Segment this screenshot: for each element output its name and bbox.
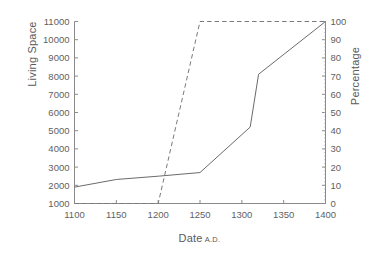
chart-plot-area: 1000200030004000500060007000800090001000…: [0, 0, 384, 257]
x-axis-tick-label: 1250: [189, 209, 210, 220]
y-axis-left-ticks: 1000200030004000500060007000800090001000…: [43, 16, 78, 209]
data-series-line-1: [75, 22, 326, 188]
data-series-line-2: [75, 22, 326, 204]
y-axis-right-tick-label: 10: [331, 180, 342, 191]
y-axis-left-tick-label: 7000: [48, 89, 69, 100]
y-axis-right-tick-label: 90: [331, 34, 342, 45]
y-axis-left-tick-label: 2000: [48, 180, 69, 191]
y-axis-right-tick-label: 100: [331, 16, 347, 27]
y-axis-left-tick-label: 11000: [44, 16, 70, 27]
x-axis-tick-label: 1400: [315, 209, 336, 220]
y-axis-left-tick-label: 10000: [43, 34, 69, 45]
x-axis-tick-label: 1350: [273, 209, 294, 220]
y-axis-right-title: Percentage: [349, 16, 361, 136]
y-axis-left-tick-label: 9000: [48, 52, 69, 63]
data-series-layer: [75, 22, 326, 204]
x-axis-tick-label: 1200: [148, 209, 169, 220]
y-axis-right-tick-label: 0: [331, 198, 336, 209]
y-axis-left-tick-label: 8000: [48, 71, 69, 82]
chart-figure: 1000200030004000500060007000800090001000…: [0, 0, 384, 257]
x-axis-title-main: Date: [179, 232, 203, 244]
x-axis-title-suffix: A.D.: [205, 235, 221, 244]
x-axis-title: DateA.D.: [74, 232, 325, 244]
y-axis-left-tick-label: 3000: [48, 162, 69, 173]
y-axis-left-tick-label: 4000: [48, 143, 69, 154]
x-axis-ticks: 1100115012001250130013501400: [64, 200, 336, 220]
x-axis-tick-label: 1100: [64, 209, 84, 220]
y-axis-right-tick-label: 40: [331, 125, 342, 136]
axis-spines: [75, 22, 326, 204]
y-axis-left-tick-label: 6000: [48, 107, 69, 118]
y-axis-left-tick-label: 1000: [48, 198, 69, 209]
y-axis-right-tick-label: 80: [331, 52, 342, 63]
x-axis-tick-label: 1150: [106, 209, 126, 220]
y-axis-right-tick-label: 50: [331, 107, 342, 118]
y-axis-right-tick-label: 30: [331, 143, 342, 154]
y-axis-right-tick-label: 20: [331, 162, 342, 173]
y-axis-right-tick-label: 70: [331, 71, 342, 82]
y-axis-right-tick-label: 60: [331, 89, 342, 100]
x-axis-tick-label: 1300: [231, 209, 252, 220]
y-axis-left-tick-label: 5000: [48, 125, 69, 136]
y-axis-left-title: Living Space: [26, 0, 38, 114]
